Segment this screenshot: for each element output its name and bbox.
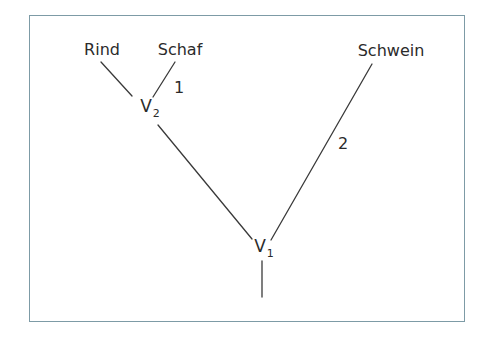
leaf-label-rind: Rind	[84, 42, 120, 58]
node-v1: V1	[254, 238, 274, 259]
leaf-label-schwein: Schwein	[358, 43, 425, 59]
edge-v2-rind	[101, 62, 132, 96]
edge-v1-schwein	[271, 64, 372, 240]
node-v2: V2	[140, 98, 160, 119]
node-v2-letter: V	[140, 96, 152, 116]
branch-label-1: 1	[174, 80, 184, 96]
leaf-label-schaf: Schaf	[158, 42, 203, 58]
edge-v2-schaf	[153, 62, 175, 97]
node-v2-subscript: 2	[153, 107, 160, 120]
branch-label-2: 2	[338, 136, 348, 152]
node-v1-subscript: 1	[267, 247, 274, 260]
node-v1-letter: V	[254, 236, 266, 256]
edge-v1-v2	[158, 125, 252, 239]
